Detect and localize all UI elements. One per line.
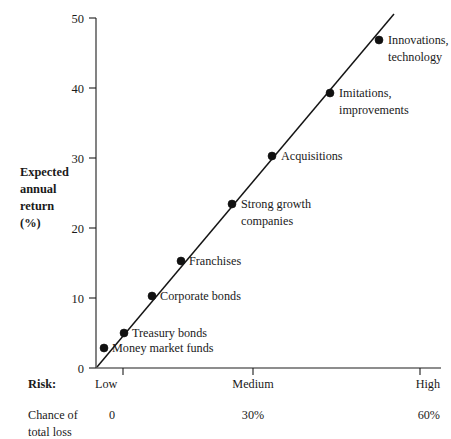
y-axis-ticks: [89, 18, 96, 368]
chart-canvas: 50 40 30 20 10 0 Expected annual return …: [0, 0, 451, 439]
y-axis-label-line-1: Expected: [20, 165, 69, 179]
chance-value-high: 60%: [418, 408, 440, 422]
chance-value-medium: 30%: [242, 408, 264, 422]
y-tick-label-20: 20: [72, 222, 85, 236]
trend-line: [97, 14, 394, 367]
risk-row-header: Risk:: [28, 377, 56, 391]
data-label-treasury-bonds: Treasury bonds: [132, 326, 207, 340]
data-label-acquisitions: Acquisitions: [281, 149, 343, 163]
y-tick-label-50: 50: [72, 12, 85, 26]
data-label-innovations-technology-line-1: Innovations,: [388, 33, 449, 47]
data-point-markers: [100, 36, 383, 352]
data-point-strong-growth-companies[interactable]: [228, 200, 236, 208]
y-tick-label-0: 0: [78, 362, 84, 376]
chance-row-header-line-2: total loss: [28, 425, 72, 439]
x-axis-ticks: [123, 368, 420, 375]
data-label-imitations-improvements-line-1: Imitations,: [339, 86, 391, 100]
data-point-money-market-funds[interactable]: [100, 344, 108, 352]
y-axis-label-line-3: return: [20, 199, 54, 213]
data-point-imitations-improvements[interactable]: [326, 89, 334, 97]
data-label-imitations-improvements-line-2: improvements: [339, 103, 409, 117]
data-point-franchises[interactable]: [177, 257, 185, 265]
data-point-innovations-technology[interactable]: [375, 36, 383, 44]
chance-value-low: 0: [109, 408, 115, 422]
data-point-corporate-bonds[interactable]: [148, 292, 156, 300]
data-label-money-market-funds: Money market funds: [112, 341, 214, 355]
risk-label-high: High: [416, 377, 440, 391]
risk-return-chart-figure: 50 40 30 20 10 0 Expected annual return …: [0, 0, 451, 439]
data-point-treasury-bonds[interactable]: [120, 329, 128, 337]
y-tick-label-40: 40: [72, 82, 85, 96]
data-label-strong-growth-companies-line-1: Strong growth: [241, 197, 311, 211]
risk-label-medium: Medium: [232, 377, 274, 391]
data-label-corporate-bonds: Corporate bonds: [160, 289, 241, 303]
chance-row-header-line-1: Chance of: [28, 408, 79, 422]
data-label-strong-growth-companies-line-2: companies: [241, 214, 293, 228]
y-axis-label: Expected annual return (%): [20, 165, 69, 230]
y-axis-label-line-4: (%): [20, 216, 41, 230]
y-axis-label-line-2: annual: [20, 182, 57, 196]
y-tick-label-10: 10: [72, 292, 85, 306]
data-label-innovations-technology-line-2: technology: [388, 50, 443, 64]
data-point-acquisitions[interactable]: [268, 152, 276, 160]
data-label-franchises: Franchises: [189, 254, 241, 268]
risk-label-low: Low: [95, 377, 118, 391]
y-tick-label-30: 30: [72, 152, 85, 166]
